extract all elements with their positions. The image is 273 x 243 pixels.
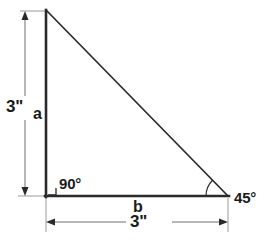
triangle-hypotenuse [47,11,228,196]
horizontal-dimension-label: 3" [130,213,147,230]
arrowhead-right-icon [219,219,228,226]
right-angle-label: 90° [59,176,81,191]
arrowhead-left-icon [46,219,55,226]
arrowhead-up-icon [22,11,29,20]
right-angle-marker-icon [48,188,56,195]
arrowhead-down-icon [22,187,29,196]
side-label-a: a [33,106,42,122]
angle-arc-marker-icon [206,181,212,197]
geometry-diagram: 3" a 90° b 3" 45° [0,0,273,243]
vertical-dimension-label: 3" [6,98,23,115]
acute-angle-label: 45° [234,190,256,205]
